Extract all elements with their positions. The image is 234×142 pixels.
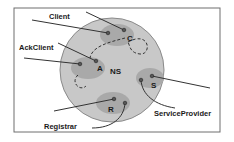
label-client: Client (49, 12, 70, 21)
endpoint-dot (106, 31, 110, 35)
endpoint-dot (150, 74, 154, 78)
region-letter-a: A (97, 64, 103, 73)
endpoint-dot (123, 101, 127, 105)
label-registrar: Registrar (44, 122, 77, 131)
ns-diagram: C A S R NS Client AckClient ServiceProvi… (0, 0, 234, 142)
region-letter-r: R (108, 105, 114, 114)
endpoint-dot (139, 78, 143, 82)
region-letter-c: C (127, 34, 133, 43)
endpoint-dot (78, 62, 82, 66)
label-serviceprovider: ServiceProvider (154, 109, 211, 118)
ns-label: NS (110, 67, 122, 76)
label-ackclient: AckClient (19, 43, 54, 52)
endpoint-dot (112, 97, 116, 101)
region-letter-s: S (151, 81, 157, 90)
endpoint-dot (122, 28, 126, 32)
endpoint-dot (94, 59, 98, 63)
